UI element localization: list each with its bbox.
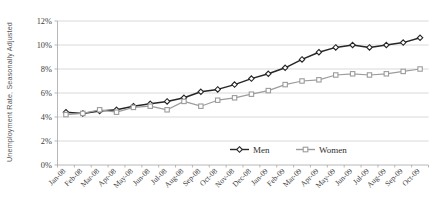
data-point-marker	[266, 88, 270, 92]
y-tick-label: 8%	[41, 65, 52, 74]
unemployment-rate-line-chart: 0%2%4%6%8%10%12% Jan-08Feb-08Mar-08Apr-0…	[0, 0, 441, 201]
y-tick-label: 6%	[41, 89, 52, 98]
data-point-marker	[367, 73, 371, 77]
data-point-marker	[114, 110, 118, 114]
data-point-marker	[384, 72, 388, 76]
data-point-marker	[249, 92, 253, 96]
data-point-marker	[165, 108, 169, 112]
data-point-marker	[418, 67, 422, 71]
data-point-marker	[182, 99, 186, 103]
data-point-marker	[300, 79, 304, 83]
y-tick-label: 10%	[37, 41, 52, 50]
data-point-marker	[334, 73, 338, 77]
legend-marker-square-icon	[303, 147, 308, 152]
data-point-marker	[401, 69, 405, 73]
data-point-marker	[216, 98, 220, 102]
data-point-marker	[350, 72, 354, 76]
y-tick-label: 2%	[41, 137, 52, 146]
chart-canvas: 0%2%4%6%8%10%12% Jan-08Feb-08Mar-08Apr-0…	[0, 0, 441, 201]
data-point-marker	[232, 96, 236, 100]
data-point-marker	[64, 112, 68, 116]
legend-label: Men	[253, 145, 270, 155]
data-point-marker	[283, 82, 287, 86]
data-point-marker	[148, 104, 152, 108]
y-axis-title: Unemployment Rate, Seasonally Adjusted	[5, 22, 14, 162]
data-point-marker	[131, 105, 135, 109]
y-tick-label: 0%	[41, 161, 52, 170]
chart-background	[0, 0, 441, 201]
data-point-marker	[97, 108, 101, 112]
data-point-marker	[199, 104, 203, 108]
legend-label: Women	[319, 145, 347, 155]
y-tick-label: 4%	[41, 113, 52, 122]
data-point-marker	[317, 78, 321, 82]
y-tick-label: 12%	[37, 17, 52, 26]
data-point-marker	[81, 111, 85, 115]
